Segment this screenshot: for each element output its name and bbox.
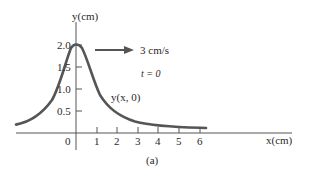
x-tick-label-4: 4 [155,135,161,147]
time-label: t = 0 [141,68,161,79]
curve-label: y(x, 0) [111,91,141,104]
y-tick-label-1.0: 1.0 [57,83,71,95]
pulse-curve [16,45,206,129]
x-tick-label-6: 6 [197,135,203,147]
x-tick-label-1: 1 [94,135,100,147]
y-tick-label-1.5: 1.5 [57,61,71,73]
y-ticks [76,45,82,111]
x-tick-label-5: 5 [176,135,182,147]
wave-pulse-diagram: y(cm) x(cm) 0 2.0 1.5 1.0 0.5 1 2 3 4 5 … [0,0,311,176]
y-tick-label-0.5: 0.5 [57,105,71,117]
origin-label: 0 [65,135,71,147]
velocity-arrow-icon [124,46,134,54]
velocity-label: 3 cm/s [140,44,169,56]
y-tick-label-2.0: 2.0 [57,39,71,51]
x-tick-label-3: 3 [135,135,141,147]
figure-caption: (a) [146,154,159,167]
y-axis-label: y(cm) [72,10,99,23]
x-axis-label: x(cm) [266,134,293,147]
x-tick-label-2: 2 [114,135,120,147]
